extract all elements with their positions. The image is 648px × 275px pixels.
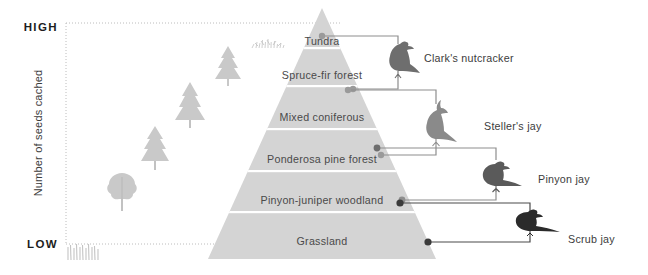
band-divider-5 [200, 211, 450, 213]
tundra-shrub-icon [252, 39, 284, 48]
juniper-tree-icon [107, 173, 136, 211]
bird-label-stellers-jay: Steller's jay [484, 120, 542, 132]
y-axis-title: Number of seeds cached [32, 70, 44, 197]
range-dot-scrub-jay-bottom [424, 238, 431, 245]
band-label-spruce-fir: Spruce-fir forest [282, 69, 362, 81]
callout-scrub-jay[interactable]: Scrub jay [396, 199, 615, 245]
range-dot-scrub-jay-top [396, 199, 403, 206]
range-dot-pinyon-jay-top [374, 145, 381, 152]
fir-tree-icon [175, 82, 205, 128]
axis-cap-high: HIGH [24, 21, 58, 33]
clarks-nutcracker-icon [389, 42, 420, 78]
stellers-jay-icon [426, 100, 457, 146]
spruce-tree-icon [215, 46, 241, 86]
bird-label-clarks-nutcracker: Clark's nutcracker [424, 52, 514, 64]
pinyon-jay-icon [483, 162, 522, 192]
leader-line-pinyon-jay-bottom [402, 192, 496, 200]
bird-label-pinyon-jay: Pinyon jay [538, 173, 590, 185]
scrub-jay-icon [516, 210, 560, 236]
range-dot-stellers-jay-bottom [378, 152, 384, 158]
grass-tuft-icon [68, 244, 98, 260]
bird-label-scrub-jay: Scrub jay [568, 233, 615, 245]
leader-line-scrub-jay-bottom [428, 236, 530, 242]
infographic-canvas: HIGH LOW Number of seeds cached [0, 0, 648, 275]
leader-line-scrub-jay-top [400, 203, 530, 216]
range-dot-clarks-nutcracker-top [319, 33, 325, 39]
leader-line-stellers-jay-bottom [381, 146, 436, 155]
seed-caching-pyramid-figure: HIGH LOW Number of seeds cached [0, 0, 648, 275]
band-label-grassland: Grassland [297, 235, 348, 247]
axis-cap-low: LOW [27, 238, 58, 250]
range-dot-stellers-jay-top [345, 87, 351, 93]
pine-tree-icon [141, 126, 169, 170]
band-label-ponderosa: Ponderosa pine forest [267, 153, 377, 165]
band-label-mixed-coniferous: Mixed coniferous [280, 111, 365, 123]
band-label-pinyon-juniper: Pinyon-juniper woodland [261, 194, 384, 206]
